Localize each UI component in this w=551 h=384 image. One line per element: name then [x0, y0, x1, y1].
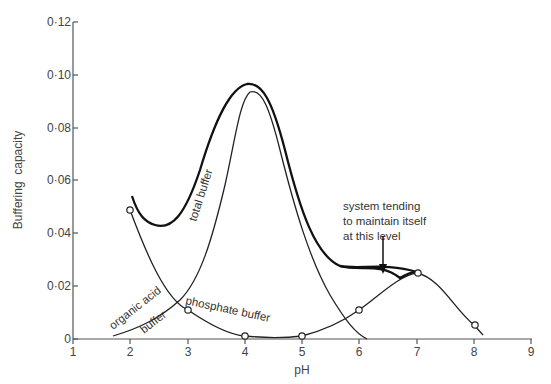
system-annotation-line1: system tending: [343, 200, 420, 212]
x-tick-4: 4: [242, 345, 249, 359]
x-tick-3: 3: [185, 345, 192, 359]
y-tick-012: 0·12: [47, 15, 71, 29]
x-tick-8: 8: [471, 345, 478, 359]
y-tick-0: 0: [64, 332, 71, 346]
marker-ph6: [356, 307, 362, 313]
y-tick-006: 0·06: [47, 173, 71, 187]
x-tick-7: 7: [414, 345, 421, 359]
system-annotation-line2: to maintain itself: [343, 215, 427, 227]
buffering-capacity-chart: 0 0·02 0·04 0·06 0·08 0·10 0·12 1 2 3 4 …: [0, 0, 551, 384]
phosphate-buffer-curve: [130, 210, 483, 338]
y-tick-labels: 0 0·02 0·04 0·06 0·08 0·10 0·12: [47, 15, 71, 346]
marker-ph4: [242, 333, 248, 339]
x-tick-2: 2: [127, 345, 134, 359]
y-tick-010: 0·10: [47, 68, 71, 82]
total-buffer-curve: [132, 84, 417, 278]
y-tick-008: 0·08: [47, 121, 71, 135]
system-annotation-line3: at this level: [343, 230, 401, 242]
x-tick-labels: 1 2 3 4 5 6 7 8 9: [70, 345, 535, 359]
marker-ph2: [127, 207, 133, 213]
marker-ph7: [415, 270, 421, 276]
organic-acid-label-line2: buffer: [138, 308, 169, 336]
phosphate-buffer-label: phosphate buffer: [185, 294, 272, 324]
x-tick-5: 5: [299, 345, 306, 359]
y-axis-label: Buffering capacity: [11, 131, 25, 230]
x-tick-6: 6: [356, 345, 363, 359]
marker-ph5: [299, 333, 305, 339]
x-tick-1: 1: [70, 345, 77, 359]
y-tick-004: 0·04: [47, 226, 71, 240]
y-tick-002: 0·02: [47, 279, 71, 293]
x-axis-label: pH: [294, 363, 309, 377]
marker-ph3: [185, 307, 191, 313]
x-tick-9: 9: [528, 345, 535, 359]
marker-ph8: [472, 322, 478, 328]
